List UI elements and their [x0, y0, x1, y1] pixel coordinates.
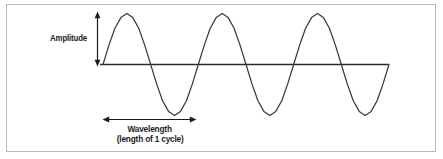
wavelength-label: Wavelength (length of 1 cycle): [103, 124, 197, 145]
figure-border-frame: [6, 4, 436, 152]
wave-diagram-figure: Amplitude Wavelength (length of 1 cycle): [0, 0, 443, 159]
amplitude-label: Amplitude: [48, 33, 89, 44]
wavelength-label-line1: Wavelength: [128, 124, 172, 134]
amplitude-label-text: Amplitude: [50, 33, 87, 44]
wavelength-label-line2: (length of 1 cycle): [117, 134, 184, 144]
